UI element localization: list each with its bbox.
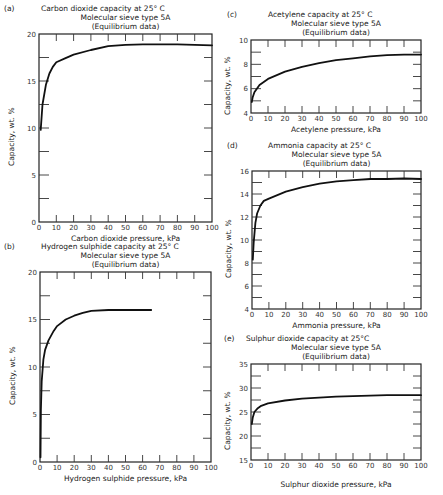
data-curve [41, 310, 152, 457]
x-tick-label: 70 [155, 464, 164, 472]
chart-c: 010203040506070809010046810 [239, 37, 428, 124]
chart-subtitle: Molecular sieve type 5A [277, 150, 397, 159]
panel-label: (d) [227, 141, 238, 150]
x-tick-label: 40 [315, 311, 324, 319]
x-axis-label: Ammonia pressure, kPa [257, 321, 417, 330]
x-tick-label: 40 [104, 224, 113, 232]
x-tick-label: 20 [281, 115, 290, 123]
x-tick-label: 80 [383, 462, 392, 470]
x-tick-label: 100 [204, 464, 217, 472]
plot-frame [251, 40, 421, 113]
chart-title: Hydrogen sulphide capacity at 25° C [41, 242, 179, 251]
x-tick-label: 10 [264, 311, 273, 319]
x-tick-label: 50 [332, 311, 341, 319]
x-tick-label: 10 [264, 115, 273, 123]
x-tick-label: 50 [332, 462, 341, 470]
x-tick-label: 70 [366, 311, 375, 319]
x-tick-label: 10 [52, 224, 61, 232]
chart-d: 010203040506070809010046810121416 [240, 168, 428, 320]
y-tick-label: 20 [27, 31, 36, 39]
y-axis-label: Capacity, wt. % [8, 346, 17, 405]
y-axis-label: Capacity, wt. % [223, 56, 232, 115]
x-tick-label: 60 [349, 462, 358, 470]
x-tick-label: 100 [414, 462, 427, 470]
x-tick-label: 30 [87, 464, 96, 472]
x-tick-label: 80 [383, 115, 392, 123]
y-tick-label: 6 [245, 283, 250, 291]
y-tick-label: 20 [28, 269, 37, 277]
x-tick-label: 90 [400, 311, 409, 319]
y-tick-label: 4 [244, 110, 249, 118]
x-tick-label: 50 [121, 224, 130, 232]
y-tick-label: 5 [32, 172, 36, 180]
y-tick-label: 10 [27, 125, 36, 133]
x-tick-label: 30 [298, 311, 307, 319]
y-axis-label: Capacity, wt. % [224, 219, 233, 278]
chart-e: 01020304050607080901001520253035 [239, 361, 428, 471]
chart-a: 010203040506070809010005101520 [27, 31, 219, 233]
y-tick-label: 20 [239, 433, 248, 441]
x-tick-label: 90 [190, 224, 199, 232]
chart-subtitle-2: (Equilibrium data) [66, 22, 186, 31]
y-axis-label: Capacity, wt. % [7, 107, 16, 166]
y-tick-label: 6 [244, 85, 249, 93]
x-tick-label: 60 [138, 464, 147, 472]
chart-title: Carbon dioxide capacity at 25° C [41, 4, 165, 13]
x-tick-label: 90 [400, 115, 409, 123]
x-tick-label: 0 [38, 464, 42, 472]
y-tick-label: 0 [33, 459, 37, 467]
x-tick-label: 90 [400, 462, 409, 470]
x-tick-label: 0 [249, 115, 253, 123]
x-tick-label: 90 [189, 464, 198, 472]
y-tick-label: 35 [239, 361, 248, 369]
y-tick-label: 15 [239, 457, 248, 465]
chart-subtitle-2: (Equilibrium data) [66, 260, 186, 269]
y-tick-label: 25 [239, 409, 248, 417]
chart-subtitle-2: (Equilibrium data) [276, 352, 396, 361]
x-tick-label: 70 [156, 224, 165, 232]
chart-title: Ammonia capacity at 25° C [268, 141, 371, 150]
x-tick-label: 70 [366, 462, 375, 470]
x-axis-label: Sulphur dioxide pressure, kPa [256, 480, 416, 489]
x-tick-label: 60 [349, 311, 358, 319]
x-tick-label: 100 [414, 311, 427, 319]
chart-subtitle: Molecular sieve type 5A [276, 343, 396, 352]
panel-label: (c) [227, 10, 237, 19]
chart-subtitle: Molecular sieve type 5A [66, 13, 186, 22]
y-tick-label: 8 [244, 61, 248, 69]
x-tick-label: 30 [298, 115, 307, 123]
chart-subtitle: Molecular sieve type 5A [276, 19, 396, 28]
chart-subtitle-2: (Equilibrium data) [277, 159, 397, 168]
plot-frame [251, 364, 421, 460]
y-tick-label: 14 [240, 191, 249, 199]
x-tick-label: 20 [70, 464, 79, 472]
panel-label: (b) [4, 242, 15, 251]
x-axis-label: Hydrogen sulphide pressure, kPa [46, 474, 206, 483]
x-tick-label: 80 [172, 464, 181, 472]
x-tick-label: 10 [53, 464, 62, 472]
data-curve [252, 395, 421, 424]
y-tick-label: 15 [27, 78, 36, 86]
y-tick-label: 10 [28, 364, 37, 372]
chart-title: Acetylene capacity at 25° C [268, 10, 372, 19]
chart-subtitle-2: (Equilibrium data) [276, 28, 396, 37]
y-tick-label: 8 [245, 260, 249, 268]
x-tick-label: 20 [281, 311, 290, 319]
y-tick-label: 10 [239, 37, 248, 45]
x-tick-label: 80 [383, 311, 392, 319]
x-tick-label: 70 [366, 115, 375, 123]
y-axis-label: Capacity, wt. % [223, 391, 232, 450]
x-tick-label: 20 [69, 224, 78, 232]
x-tick-label: 100 [414, 115, 427, 123]
x-tick-label: 100 [205, 224, 218, 232]
x-tick-label: 0 [37, 224, 41, 232]
x-axis-label: Acetylene pressure, kPa [256, 125, 416, 134]
x-tick-label: 60 [349, 115, 358, 123]
x-tick-label: 60 [138, 224, 147, 232]
x-tick-label: 40 [315, 115, 324, 123]
x-tick-label: 0 [249, 462, 253, 470]
data-curve [253, 179, 421, 260]
plot-frame [39, 34, 212, 222]
y-tick-label: 0 [32, 219, 36, 227]
chart-title: Sulphur dioxide capacity at 25°C [246, 334, 369, 343]
